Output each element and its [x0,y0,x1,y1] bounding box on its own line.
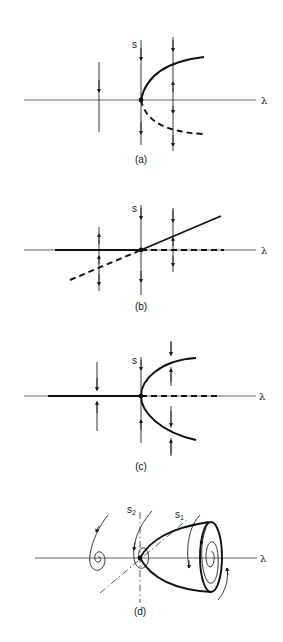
s1-label: s1 [175,509,184,521]
panel-caption: (a) [135,154,147,165]
stable-focus-spiral [90,515,108,570]
flow-arrow-icon [134,542,135,550]
origin-spiral [134,511,152,568]
bifurcation-point [139,248,144,253]
panel-a: λ s (a) [24,37,268,165]
pitchfork-branches [141,358,196,440]
panel-b: λ s (b) [24,203,268,312]
panel-caption: (d) [134,606,146,617]
bifurcation-point [139,98,144,103]
stable-sloped-branch [141,216,221,250]
s-label: s [132,39,137,50]
s-label: s [132,355,137,366]
bifurcation-point [139,394,144,399]
unstable-sloped-branch [70,250,141,280]
bifurcation-figure: λ s (a) λ s [0,0,283,642]
limit-cycle [200,522,222,592]
panel-caption: (c) [135,461,147,472]
panel-d: λ s2 s1 (d) [35,504,267,617]
s-label: s [132,203,137,214]
bifurcation-point [138,556,143,561]
unstable-branch [141,100,204,134]
stable-branch [141,57,204,100]
lambda-label: λ [261,245,268,256]
s2-label: s2 [127,504,136,516]
outer-flow-curve-bottom [218,568,228,600]
panel-c: λ s (c) [24,341,266,472]
lambda-label: λ [260,553,267,564]
lambda-label: λ [261,95,268,106]
lambda-label: λ [259,391,266,402]
limit-cycle-cone-upper [140,522,209,558]
outer-flow-curve-top [188,515,200,568]
panel-caption: (b) [135,301,147,312]
cycle-interior-spiral [202,528,218,583]
